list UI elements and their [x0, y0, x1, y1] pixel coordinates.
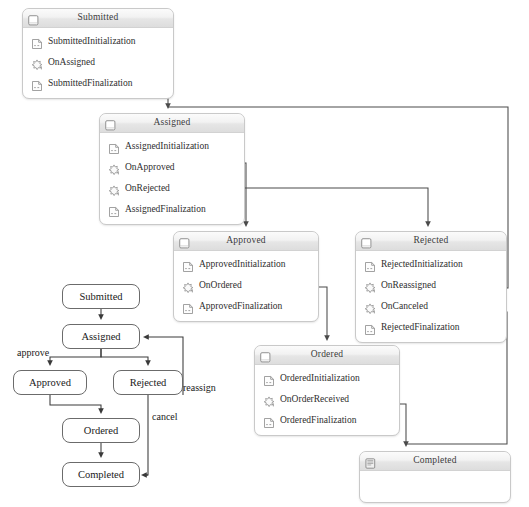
- activity-body-assigned: AssignedInitializationOnApprovedOnReject…: [100, 133, 244, 224]
- activity-body-completed: [360, 471, 510, 502]
- activity-row-label: OnOrdered: [199, 281, 242, 291]
- activity-row[interactable]: OnOrdered: [174, 275, 318, 296]
- activity-row-label: OnCanceled: [381, 302, 428, 312]
- activity-body-approved: ApprovedInitializationOnOrderedApprovedF…: [174, 251, 318, 321]
- activity-row-label: OnReassigned: [381, 281, 436, 291]
- activity-row-label: OrderedFinalization: [280, 416, 357, 426]
- activity-box-assigned[interactable]: AssignedAssignedInitializationOnApproved…: [99, 113, 245, 225]
- state-node-sm-submitted[interactable]: Submitted: [62, 284, 140, 309]
- state-edge-label-edge-reassign: reassign: [183, 382, 216, 393]
- activity-box-completed[interactable]: Completed: [359, 451, 511, 503]
- code-activity-icon: [364, 259, 376, 271]
- event-driven-activity-icon: [31, 57, 43, 69]
- activity-title-ordered: Ordered: [255, 350, 399, 360]
- activity-row-label: SubmittedFinalization: [48, 79, 132, 89]
- activity-row[interactable]: OnReassigned: [356, 275, 506, 296]
- activity-row-label: OrderedInitialization: [280, 374, 360, 384]
- code-activity-icon: [263, 373, 275, 385]
- activity-row[interactable]: OrderedFinalization: [255, 410, 399, 431]
- state-edge-label-edge-cancel: cancel: [152, 411, 178, 422]
- activity-title-approved: Approved: [174, 236, 318, 246]
- event-driven-activity-icon: [182, 280, 194, 292]
- activity-row[interactable]: RejectedInitialization: [356, 254, 506, 275]
- activity-row-label: RejectedFinalization: [381, 323, 460, 333]
- activity-row[interactable]: ApprovedFinalization: [174, 296, 318, 317]
- state-node-sm-assigned[interactable]: Assigned: [62, 324, 140, 349]
- activity-row[interactable]: ApprovedInitialization: [174, 254, 318, 275]
- event-driven-activity-icon: [108, 162, 120, 174]
- activity-box-ordered[interactable]: OrderedOrderedInitializationOnOrderRecei…: [254, 345, 400, 436]
- activity-title-assigned: Assigned: [100, 118, 244, 128]
- activity-row-label: AssignedInitialization: [125, 142, 209, 152]
- activity-row-label: ApprovedInitialization: [199, 260, 286, 270]
- activity-row[interactable]: AssignedFinalization: [100, 199, 244, 220]
- activity-row[interactable]: OnRejected: [100, 178, 244, 199]
- activity-row[interactable]: OnOrderReceived: [255, 389, 399, 410]
- code-activity-icon: [182, 259, 194, 271]
- activity-header-rejected[interactable]: Rejected: [356, 232, 506, 251]
- activity-box-approved[interactable]: ApprovedApprovedInitializationOnOrderedA…: [173, 231, 319, 322]
- activity-row[interactable]: OnAssigned: [23, 52, 173, 73]
- activity-header-assigned[interactable]: Assigned: [100, 114, 244, 133]
- activity-header-ordered[interactable]: Ordered: [255, 346, 399, 365]
- state-activity-icon: [361, 235, 372, 246]
- activity-title-rejected: Rejected: [356, 236, 506, 246]
- activity-row-label: OnApproved: [125, 163, 175, 173]
- activity-row[interactable]: SubmittedFinalization: [23, 73, 173, 94]
- state-node-sm-completed[interactable]: Completed: [62, 462, 140, 487]
- activity-row-label: OnAssigned: [48, 58, 95, 68]
- code-activity-icon: [31, 36, 43, 48]
- code-activity-icon: [108, 141, 120, 153]
- activity-row-label: AssignedFinalization: [125, 205, 206, 215]
- workflow-designer-canvas: SubmittedAssignedApprovedRejectedOrdered…: [0, 0, 529, 507]
- activity-body-submitted: SubmittedInitializationOnAssignedSubmitt…: [23, 28, 173, 98]
- activity-body-ordered: OrderedInitializationOnOrderReceivedOrde…: [255, 365, 399, 435]
- state-activity-icon: [260, 349, 271, 360]
- activity-header-submitted[interactable]: Submitted: [23, 9, 173, 28]
- event-driven-activity-icon: [364, 301, 376, 313]
- activity-header-approved[interactable]: Approved: [174, 232, 318, 251]
- event-driven-activity-icon: [108, 183, 120, 195]
- activity-row[interactable]: OrderedInitialization: [255, 368, 399, 389]
- activity-row[interactable]: OnApproved: [100, 157, 244, 178]
- activity-header-completed[interactable]: Completed: [360, 452, 510, 471]
- activity-row[interactable]: SubmittedInitialization: [23, 31, 173, 52]
- event-driven-activity-icon: [263, 394, 275, 406]
- state-node-sm-ordered[interactable]: Ordered: [62, 418, 140, 443]
- state-activity-icon: [179, 235, 190, 246]
- activity-box-submitted[interactable]: SubmittedSubmittedInitializationOnAssign…: [22, 8, 174, 99]
- activity-row-label: SubmittedInitialization: [48, 37, 136, 47]
- event-driven-activity-icon: [364, 280, 376, 292]
- state-node-sm-rejected[interactable]: Rejected: [113, 370, 183, 395]
- activity-row-label: RejectedInitialization: [381, 260, 463, 270]
- state-edge-label-edge-approve: approve: [17, 347, 49, 358]
- activity-row-label: OnOrderReceived: [280, 395, 349, 405]
- code-activity-icon: [263, 415, 275, 427]
- state-node-sm-approved[interactable]: Approved: [13, 370, 87, 395]
- activity-title-completed: Completed: [360, 456, 510, 466]
- code-activity-icon: [108, 204, 120, 216]
- activity-row-label: OnRejected: [125, 184, 170, 194]
- activity-row[interactable]: AssignedInitialization: [100, 136, 244, 157]
- state-activity-icon: [105, 117, 116, 128]
- code-activity-icon: [182, 301, 194, 313]
- activity-row[interactable]: RejectedFinalization: [356, 317, 506, 338]
- activity-row[interactable]: OnCanceled: [356, 296, 506, 317]
- activity-row-label: ApprovedFinalization: [199, 302, 282, 312]
- code-activity-icon: [364, 322, 376, 334]
- activity-title-submitted: Submitted: [23, 13, 173, 23]
- activity-body-rejected: RejectedInitializationOnReassignedOnCanc…: [356, 251, 506, 342]
- completed-state-icon: [365, 455, 376, 466]
- state-activity-icon: [28, 12, 39, 23]
- code-activity-icon: [31, 78, 43, 90]
- activity-box-rejected[interactable]: RejectedRejectedInitializationOnReassign…: [355, 231, 507, 343]
